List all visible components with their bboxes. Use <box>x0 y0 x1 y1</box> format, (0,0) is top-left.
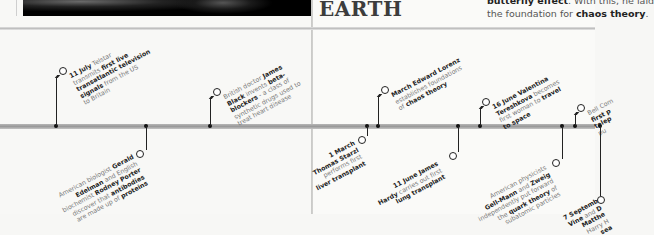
event-marker-icon <box>482 98 490 106</box>
event-stem <box>210 98 211 126</box>
intro-text-run: the foundation for <box>487 8 576 19</box>
event-stem <box>146 126 147 150</box>
event-marker-icon <box>381 86 389 94</box>
event-marker-icon <box>449 152 457 160</box>
event-stem <box>480 108 481 126</box>
section-heading: EARTH <box>319 0 402 21</box>
event-stem <box>378 96 379 126</box>
intro-text-line: butterfly effect. With this, he laid <box>487 0 607 7</box>
intro-text-run: . <box>645 8 648 19</box>
intro-text: butterfly effect. With this, he laidthe … <box>487 0 607 20</box>
section-divider <box>0 27 595 30</box>
margin-line <box>16 0 17 16</box>
event-marker-icon <box>136 150 144 158</box>
event-stem <box>575 114 576 126</box>
event-stem <box>56 77 57 126</box>
event-marker-icon <box>213 88 221 96</box>
event-marker-icon <box>358 136 366 144</box>
intro-text-line: the foundation for chaos theory. <box>487 7 607 20</box>
intro-text-run: . With this, he laid <box>568 0 654 6</box>
event-stem <box>600 126 601 196</box>
intro-text-run: butterfly effect <box>487 0 568 6</box>
event-stem <box>367 126 368 136</box>
event-stem <box>458 126 459 152</box>
intro-text-run: chaos theory <box>576 8 645 19</box>
event-marker-icon <box>552 159 560 167</box>
event-marker-icon <box>577 104 585 112</box>
earth-photo <box>23 0 312 16</box>
event-marker-icon <box>59 67 67 75</box>
event-stem <box>562 126 563 159</box>
